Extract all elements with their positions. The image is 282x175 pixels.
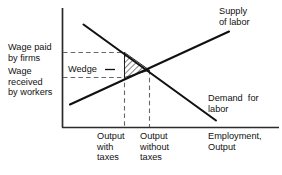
- curve-label-supply-of-labor: Supply of labor: [219, 6, 250, 27]
- output-with-line3: taxes: [97, 152, 119, 162]
- wage-paid-line2: by firms: [8, 53, 40, 63]
- supply-line1: Supply: [219, 6, 247, 16]
- demand-line1: Demand for: [208, 93, 259, 103]
- wedge-text: Wedge: [68, 64, 97, 74]
- wage-received-line3: by workers: [8, 87, 52, 97]
- axis-label-wage-paid-by-firms: Wage paid by firms: [8, 42, 52, 63]
- x-tick-label-output-without-taxes: Output without taxes: [140, 131, 169, 163]
- x-tick-label-output-with-taxes: Output with taxes: [97, 131, 125, 163]
- output-without-line2: without: [140, 142, 169, 152]
- demand-line2: labor: [208, 104, 228, 114]
- tax-wedge-figure: Wage paid by firms Wage received by work…: [0, 0, 282, 175]
- wedge-label: Wedge: [68, 64, 97, 75]
- x-axis-title-line2: Output: [208, 142, 236, 152]
- wage-received-line2: received: [8, 77, 43, 87]
- x-axis-title: Employment, Output: [208, 131, 262, 152]
- output-without-line3: taxes: [140, 152, 162, 162]
- output-without-line1: Output: [140, 131, 168, 141]
- demand-for-labor-curve: [84, 25, 217, 121]
- x-axis-title-line1: Employment,: [208, 131, 262, 141]
- output-with-line1: Output: [97, 131, 125, 141]
- output-with-line2: with: [97, 142, 113, 152]
- wage-received-line1: Wage: [8, 66, 32, 76]
- curve-label-demand-for-labor: Demand for labor: [208, 93, 259, 114]
- wage-paid-line1: Wage paid: [8, 42, 52, 52]
- supply-line2: of labor: [219, 17, 250, 27]
- axis-label-wage-received-by-workers: Wage received by workers: [8, 66, 52, 98]
